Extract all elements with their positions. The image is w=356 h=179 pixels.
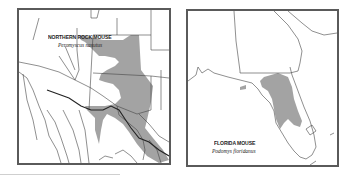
scientific-name: Peromyscus nasutus [58, 41, 115, 48]
map-northern-rock-mouse: NORTHERN ROCK MOUSE Peromyscus nasutus [17, 8, 171, 165]
common-name: NORTHERN ROCK MOUSE [48, 33, 112, 40]
common-name: FLORIDA MOUSE [214, 139, 255, 146]
divider-line [0, 174, 120, 175]
range-area [260, 73, 302, 129]
map-label-florida-mouse: FLORIDA MOUSE Podomys floridanus [212, 139, 264, 154]
map-florida-mouse: FLORIDA MOUSE Podomys floridanus [186, 9, 339, 167]
map-label-northern-rock-mouse: NORTHERN ROCK MOUSE Peromyscus nasutus [48, 33, 126, 48]
range-area [79, 35, 169, 163]
scientific-name: Podomys floridanus [212, 147, 257, 154]
